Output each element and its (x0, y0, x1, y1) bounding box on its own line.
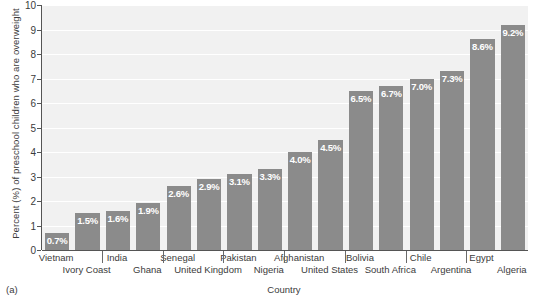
x-category-label: United States (301, 264, 358, 275)
bar-value-label: 2.6% (167, 188, 191, 199)
bar: 2.9% (197, 179, 221, 250)
x-category-label: Ghana (133, 264, 162, 275)
x-label-separator (406, 251, 407, 263)
x-category-label: Bolivia (346, 252, 374, 263)
bar-value-label: 7.0% (410, 81, 434, 92)
bar: 6.7% (379, 86, 403, 250)
bar-series: 0.7%1.5%1.6%1.9%2.6%2.9%3.1%3.3%4.0%4.5%… (42, 5, 528, 250)
bar-value-label: 6.5% (349, 93, 373, 104)
y-tick-label: 8 (18, 49, 36, 60)
bar: 3.1% (227, 174, 251, 250)
x-category-label: Argentina (431, 264, 472, 275)
bar: 6.5% (349, 91, 373, 250)
bar-value-label: 7.3% (440, 73, 464, 84)
x-label-separator (466, 251, 467, 263)
bar-value-label: 1.6% (106, 213, 130, 224)
x-category-label: Pakistan (220, 252, 256, 263)
bar-value-label: 4.0% (288, 154, 312, 165)
plot-area: 0.7%1.5%1.6%1.9%2.6%2.9%3.1%3.3%4.0%4.5%… (41, 5, 528, 250)
bar: 8.6% (470, 39, 494, 250)
x-category-label: Chile (410, 252, 432, 263)
figure-panel-a: Percent (%) of preschool children who ar… (0, 0, 540, 301)
y-tick-label: 2 (18, 196, 36, 207)
x-label-separator (102, 251, 103, 263)
bar: 1.6% (106, 211, 130, 250)
bar-value-label: 0.7% (45, 235, 69, 246)
x-category-label: South Africa (365, 264, 416, 275)
x-axis-title: Country (41, 284, 527, 295)
bar: 7.3% (440, 71, 464, 250)
panel-letter: (a) (6, 284, 18, 295)
y-tick-label: 0 (18, 245, 36, 256)
bar-value-label: 1.5% (75, 215, 99, 226)
bar: 9.2% (501, 25, 525, 250)
x-category-label: Algeria (497, 264, 527, 275)
bar: 3.3% (258, 169, 282, 250)
y-tick-label: 1 (18, 220, 36, 231)
x-category-label: Afghanistan (274, 252, 324, 263)
bar-value-label: 2.9% (197, 181, 221, 192)
y-tick-label: 10 (18, 0, 36, 11)
bar-value-label: 4.5% (318, 142, 342, 153)
bar-value-label: 8.6% (470, 41, 494, 52)
bar-value-label: 3.3% (258, 171, 282, 182)
bar: 1.5% (75, 213, 99, 250)
x-category-label: Vietnam (39, 252, 74, 263)
bar-value-label: 3.1% (227, 176, 251, 187)
x-category-label: Nigeria (254, 264, 284, 275)
x-label-separator (284, 251, 285, 263)
bar: 4.5% (318, 140, 342, 250)
bar: 1.9% (136, 203, 160, 250)
y-tick-label: 7 (18, 73, 36, 84)
y-tick-label: 9 (18, 24, 36, 35)
bar: 0.7% (45, 233, 69, 250)
bar-value-label: 6.7% (379, 88, 403, 99)
x-label-separator (163, 251, 164, 263)
x-axis-category-labels: VietnamIvory CoastIndiaGhanaSenegalUnite… (41, 251, 527, 281)
x-label-separator (345, 251, 346, 263)
bar-value-label: 9.2% (501, 27, 525, 38)
x-category-label: United Kingdom (174, 264, 242, 275)
y-tick-label: 6 (18, 98, 36, 109)
y-tick-label: 4 (18, 147, 36, 158)
x-category-label: Ivory Coast (63, 264, 111, 275)
bar-value-label: 1.9% (136, 205, 160, 216)
x-category-label: India (107, 252, 128, 263)
x-label-separator (223, 251, 224, 263)
y-tick-label: 5 (18, 122, 36, 133)
bar: 2.6% (167, 186, 191, 250)
bar: 4.0% (288, 152, 312, 250)
y-tick-label: 3 (18, 171, 36, 182)
x-category-label: Egypt (469, 252, 493, 263)
x-category-label: Senegal (160, 252, 195, 263)
bar: 7.0% (410, 79, 434, 251)
caption-sliver (6, 297, 534, 301)
